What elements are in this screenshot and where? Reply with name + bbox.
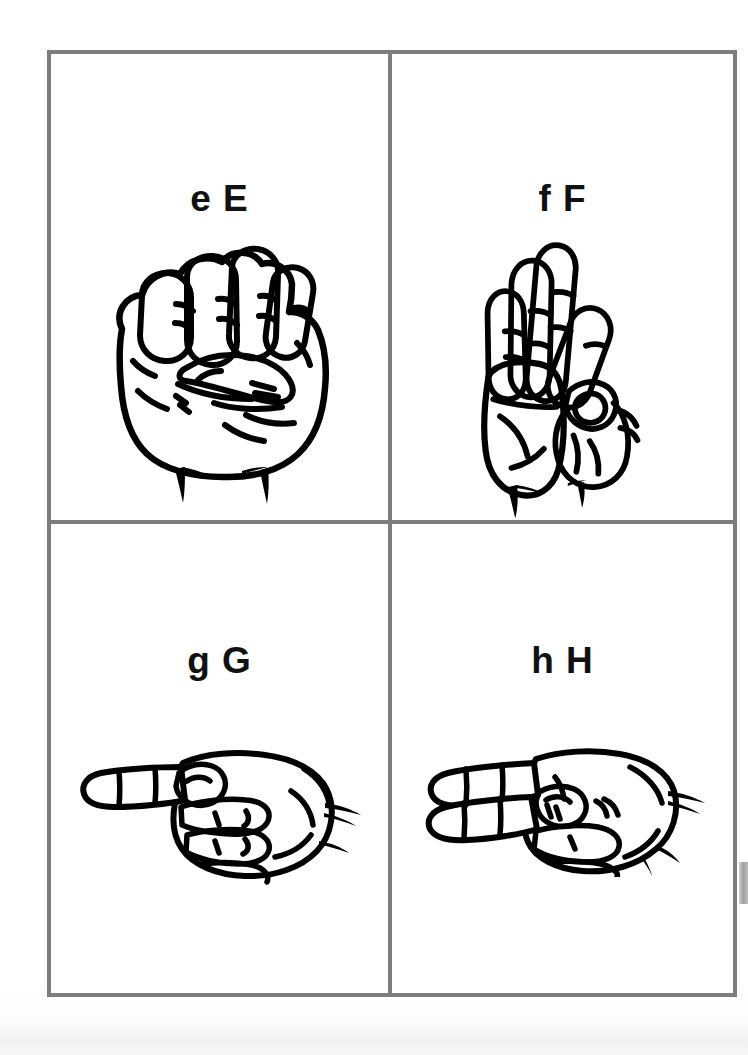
- asl-hand-letter-f-icon: [448, 233, 678, 520]
- card-label-g: g G: [187, 642, 252, 679]
- card-label-h: h H: [531, 642, 594, 679]
- flashcard-grid: e E: [47, 50, 737, 997]
- asl-hand-letter-g-icon: [75, 745, 365, 885]
- flashcard-letter-h[interactable]: h H: [392, 524, 733, 994]
- asl-hand-letter-h-icon: [418, 745, 708, 877]
- card-label-f: f F: [538, 180, 586, 217]
- card-label-e: e E: [190, 180, 249, 217]
- flashcard-letter-g[interactable]: g G: [51, 524, 392, 994]
- flashcard-letter-f[interactable]: f F: [392, 54, 733, 524]
- flashcard-letter-e[interactable]: e E: [51, 54, 392, 524]
- asl-hand-letter-e-icon: [92, 233, 347, 505]
- scan-bottom-smudge: [0, 1022, 748, 1055]
- scan-edge-artifact: [739, 862, 748, 904]
